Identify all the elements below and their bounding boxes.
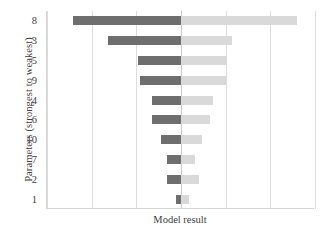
bar-segment-low <box>140 76 181 85</box>
bar-segment-low <box>152 96 181 105</box>
tornado-bar-row <box>47 36 314 45</box>
bar-segment-high <box>181 135 202 144</box>
tornado-bar-row <box>47 175 314 184</box>
bar-series-group <box>47 11 314 209</box>
tornado-bar-row <box>47 56 314 65</box>
bar-segment-high <box>181 36 232 45</box>
y-tick-label: 6 <box>20 110 40 130</box>
tornado-bar-row <box>47 195 314 204</box>
tornado-bar-row <box>47 155 314 164</box>
bar-segment-low <box>167 155 181 164</box>
y-tick-label: 1 <box>20 189 40 209</box>
tornado-bar-row <box>47 135 314 144</box>
gridline <box>315 11 316 209</box>
tornado-chart: Parameters (strongest to weakest) 835946… <box>0 0 334 238</box>
bar-segment-low <box>138 56 181 65</box>
bar-segment-high <box>181 96 213 105</box>
bar-segment-low <box>73 16 181 25</box>
tornado-bar-row <box>47 76 314 85</box>
y-tick-label: 7 <box>20 150 40 170</box>
bar-segment-low <box>152 115 181 124</box>
x-axis-title: Model result <box>46 214 314 225</box>
tornado-bar-row <box>47 115 314 124</box>
y-tick-label: 2 <box>20 169 40 189</box>
bar-segment-low <box>108 36 181 45</box>
bar-segment-high <box>181 56 227 65</box>
bar-segment-high <box>181 16 297 25</box>
tornado-bar-row <box>47 96 314 105</box>
bar-segment-high <box>181 155 195 164</box>
y-tick-label: 5 <box>20 51 40 71</box>
y-tick-label: 8 <box>20 11 40 31</box>
y-tick-label: 9 <box>20 70 40 90</box>
y-tick-label: 3 <box>20 31 40 51</box>
x-axis-line <box>47 208 314 209</box>
bar-segment-high <box>181 175 199 184</box>
y-axis-tick-labels: 83594610721 <box>20 11 40 209</box>
plot-area <box>46 11 314 209</box>
y-tick-label: 4 <box>20 90 40 110</box>
bar-segment-high <box>181 195 189 204</box>
bar-segment-high <box>181 115 210 124</box>
bar-segment-low <box>167 175 181 184</box>
y-tick-label: 10 <box>20 130 40 150</box>
bar-segment-low <box>161 135 181 144</box>
bar-segment-high <box>181 76 226 85</box>
tornado-bar-row <box>47 16 314 25</box>
